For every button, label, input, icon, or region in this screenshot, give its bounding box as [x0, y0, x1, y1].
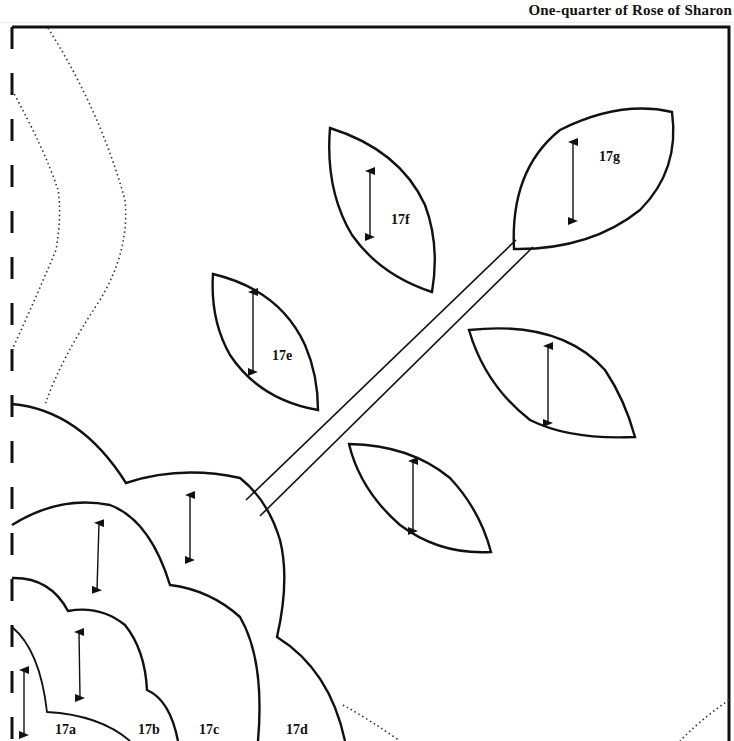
leaf-17e [213, 274, 318, 410]
piece-label-17f: 17f [391, 212, 410, 227]
quilting-lines [12, 28, 729, 741]
leaf-bottom [349, 444, 491, 552]
piece-label-17a: 17a [55, 722, 76, 737]
rose-layer-17b [12, 578, 178, 741]
grain-arrow-icons [24, 142, 573, 735]
piece-label-17e: 17e [272, 348, 292, 363]
rose-layer-17c [12, 503, 260, 741]
block-border [12, 27, 729, 741]
piece-label-17g: 17g [599, 149, 620, 164]
grain-arrow-icon [97, 523, 99, 590]
quilt-pattern: 17a 17b 17c 17d 17e 17f 17g [0, 0, 734, 741]
leaf-right [469, 328, 635, 437]
leaf-17g [514, 109, 674, 249]
piece-label-17c: 17c [199, 722, 219, 737]
piece-label-17d: 17d [286, 722, 308, 737]
grain-arrow-icon [79, 632, 80, 698]
rose-outer-layer-17d [12, 404, 345, 741]
piece-label-17b: 17b [138, 722, 160, 737]
leaf-17f [329, 128, 435, 292]
